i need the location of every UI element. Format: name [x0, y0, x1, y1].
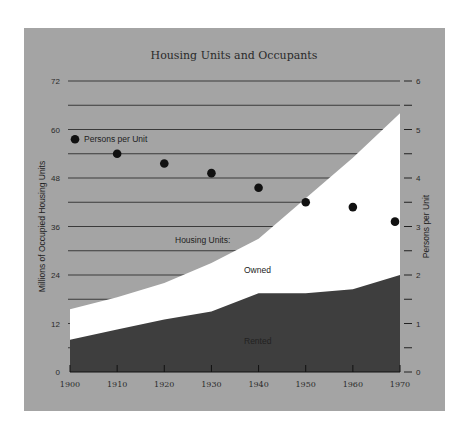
- x-tick-label: 1960: [343, 380, 363, 389]
- y-right-tick-label: 5: [416, 126, 421, 135]
- y-right-tick-label: 1: [416, 320, 421, 329]
- persons-point: [254, 183, 263, 192]
- y-tick-label: 12: [51, 320, 60, 329]
- label-housing-units: Housing Units:: [175, 235, 230, 245]
- chart-title: Housing Units and Occupants: [151, 49, 318, 62]
- y-tick-label: 60: [51, 126, 60, 135]
- label-owned: Owned: [244, 265, 271, 275]
- x-tick-label: 1940: [248, 380, 268, 389]
- x-tick-label: 1920: [154, 380, 174, 389]
- persons-point: [301, 198, 310, 207]
- persons-point: [160, 159, 169, 168]
- label-rented: Rented: [244, 336, 272, 346]
- chart-panel: Housing Units and Occupants1900191019201…: [24, 28, 445, 411]
- y-axis-title: Millions of Occupied Housing Units: [37, 161, 47, 292]
- y-tick-label: 24: [51, 271, 60, 280]
- chart-canvas: Housing Units and Occupants1900191019201…: [24, 28, 445, 411]
- x-tick-label: 1950: [296, 380, 316, 389]
- persons-point: [71, 135, 80, 144]
- x-tick-label: 1910: [107, 380, 127, 389]
- x-tick-label: 1900: [60, 380, 80, 389]
- y-tick-label: 72: [51, 77, 60, 86]
- y-right-tick-label: 0: [416, 368, 421, 377]
- y-right-tick-label: 6: [416, 77, 421, 86]
- y-tick-label: 0: [56, 368, 61, 377]
- x-tick-label: 1930: [201, 380, 221, 389]
- y-right-axis-title: Persons per Unit: [421, 194, 431, 258]
- y-tick-label: 36: [51, 223, 60, 232]
- persons-point: [113, 149, 122, 158]
- y-right-tick-label: 2: [416, 271, 421, 280]
- persons-point: [207, 169, 216, 178]
- persons-point: [391, 217, 400, 226]
- legend-persons-per-unit: Persons per Unit: [84, 134, 148, 144]
- y-tick-label: 48: [51, 174, 60, 183]
- x-tick-label: 1970: [390, 380, 410, 389]
- persons-point: [349, 203, 358, 212]
- y-right-tick-label: 4: [416, 174, 421, 183]
